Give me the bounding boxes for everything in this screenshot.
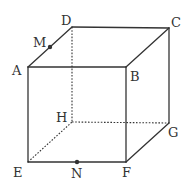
edge-cd: [72, 27, 169, 28]
label-a: A: [11, 63, 22, 78]
vertex-labels: ABCDEFGHMN: [11, 13, 181, 181]
point-n-dot: [75, 160, 79, 164]
hidden-edge-eh: [28, 122, 72, 162]
point-markers: [48, 45, 79, 164]
label-m: M: [33, 35, 46, 50]
label-n: N: [71, 166, 82, 181]
cube-diagram: ABCDEFGHMN: [0, 0, 192, 190]
point-m-dot: [48, 45, 52, 49]
label-g: G: [168, 125, 178, 140]
hidden-edge-hg: [72, 122, 169, 123]
label-f: F: [122, 165, 131, 180]
label-b: B: [130, 69, 140, 84]
label-d: D: [61, 13, 71, 28]
label-c: C: [171, 15, 181, 30]
label-e: E: [13, 165, 23, 180]
edge-bc: [126, 28, 169, 67]
edge-fg: [126, 123, 169, 162]
label-h: H: [56, 110, 67, 125]
